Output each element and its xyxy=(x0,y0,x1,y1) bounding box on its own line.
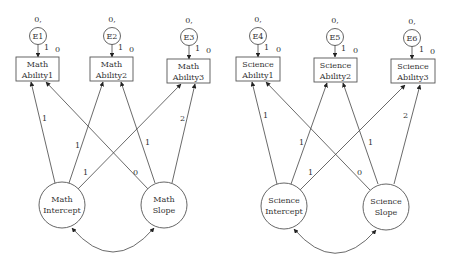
observed-math-ability3: Math Ability3 xyxy=(167,59,210,83)
science-slope-line2: Slope xyxy=(375,208,398,217)
e4-intercept-label: 0 xyxy=(276,45,281,54)
observed-science-ability2: Science Ability2 xyxy=(314,58,357,82)
error-e4: 0, E4 1 0 xyxy=(250,15,282,57)
science-ability1-line1: Science xyxy=(242,60,274,69)
e5-mean-variance: 0, xyxy=(331,16,339,25)
e5-label: E5 xyxy=(330,33,341,42)
math-ability3-line1: Math xyxy=(178,62,199,71)
science-ability2-line1: Science xyxy=(320,61,352,70)
observed-math-ability1: Math Ability1 xyxy=(16,57,59,81)
math-ability2-line2: Ability2 xyxy=(95,71,127,80)
math-slope-loading-2: 1 xyxy=(145,138,150,147)
math-covariance-arrow xyxy=(72,228,154,252)
e6-mean-variance: 0, xyxy=(408,17,416,26)
math-ability1-line1: Math xyxy=(27,60,48,69)
e3-mean-variance: 0, xyxy=(185,16,193,25)
science-panel: 0, E4 1 0 0, E5 1 0 0, E6 1 0 S xyxy=(236,15,435,253)
math-intercept-loading-2: 1 xyxy=(75,141,80,150)
science-intercept-line2: Intercept xyxy=(265,207,303,216)
e6-path-label: 1 xyxy=(419,45,424,54)
e1-path-label: 1 xyxy=(44,43,49,52)
science-slope-circle xyxy=(363,184,409,230)
science-intercept-to-ability1-arrow xyxy=(252,82,277,184)
observed-science-ability3: Science Ability3 xyxy=(391,59,435,83)
e4-mean-variance: 0, xyxy=(254,15,262,24)
math-panel: 0, E1 1 0 0, E2 1 0 0, E3 1 0 M xyxy=(16,15,211,252)
math-ability3-line2: Ability3 xyxy=(172,73,204,82)
math-intercept-line2: Intercept xyxy=(43,206,81,215)
science-intercept-loading-3: 1 xyxy=(308,168,313,177)
science-intercept-circle xyxy=(261,183,307,229)
math-ability2-line1: Math xyxy=(101,60,122,69)
path-diagram: 0, E1 1 0 0, E2 1 0 0, E3 1 0 M xyxy=(0,0,452,266)
e2-intercept-label: 0 xyxy=(129,45,134,54)
science-slope-line1: Science xyxy=(370,197,402,206)
error-e6: 0, E6 1 0 xyxy=(404,17,436,59)
e3-intercept-label: 0 xyxy=(206,46,211,55)
science-intercept-to-ability3-arrow xyxy=(300,85,405,190)
e5-intercept-label: 0 xyxy=(353,46,358,55)
math-intercept-to-ability1-arrow xyxy=(31,82,55,183)
observed-math-ability2: Math Ability2 xyxy=(90,57,133,81)
e6-intercept-label: 0 xyxy=(430,47,435,56)
science-intercept-loading-1: 1 xyxy=(263,111,268,120)
science-slope-loading-1: 0 xyxy=(357,168,362,177)
latent-science-slope: Science Slope xyxy=(363,184,409,230)
science-ability3-line2: Ability3 xyxy=(396,73,428,82)
e3-path-label: 1 xyxy=(195,44,200,53)
error-e2: 0, E2 1 0 xyxy=(104,15,135,57)
math-slope-to-ability3-arrow xyxy=(172,84,195,183)
science-intercept-line1: Science xyxy=(268,196,300,205)
math-slope-loading-3: 2 xyxy=(180,114,185,123)
science-intercept-loading-2: 1 xyxy=(299,138,304,147)
science-ability2-line2: Ability2 xyxy=(319,72,351,81)
science-slope-loading-2: 1 xyxy=(368,138,373,147)
e3-label: E3 xyxy=(184,33,195,42)
e6-label: E6 xyxy=(407,34,418,43)
e2-mean-variance: 0, xyxy=(108,15,116,24)
error-e5: 0, E5 1 0 xyxy=(327,16,359,57)
latent-math-intercept: Math Intercept xyxy=(39,182,85,228)
e1-intercept-label: 0 xyxy=(55,45,60,54)
error-e3: 0, E3 1 0 xyxy=(181,16,212,59)
math-slope-loading-1: 0 xyxy=(133,168,138,177)
math-intercept-circle xyxy=(39,182,85,228)
math-slope-line1: Math xyxy=(153,195,174,204)
e1-label: E1 xyxy=(33,32,44,41)
math-slope-circle xyxy=(141,182,187,228)
observed-science-ability1: Science Ability1 xyxy=(236,57,280,81)
latent-math-slope: Math Slope xyxy=(141,182,187,228)
e4-path-label: 1 xyxy=(264,43,269,52)
math-intercept-loading-3: 1 xyxy=(83,168,88,177)
science-ability1-line2: Ability1 xyxy=(241,71,273,80)
science-slope-to-ability3-arrow xyxy=(394,85,420,184)
math-intercept-line1: Math xyxy=(51,195,72,204)
latent-science-intercept: Science Intercept xyxy=(261,183,307,229)
science-covariance-arrow xyxy=(294,229,376,253)
math-ability1-line2: Ability1 xyxy=(21,71,53,80)
science-ability3-line1: Science xyxy=(397,62,429,71)
e5-path-label: 1 xyxy=(341,44,346,53)
science-slope-loading-3: 2 xyxy=(403,111,408,120)
e4-label: E4 xyxy=(253,32,264,41)
e2-path-label: 1 xyxy=(118,43,123,52)
error-e1: 0, E1 1 0 xyxy=(30,15,61,57)
math-intercept-to-ability3-arrow xyxy=(78,84,181,189)
math-slope-line2: Slope xyxy=(153,206,176,215)
e1-mean-variance: 0, xyxy=(34,15,42,24)
e2-label: E2 xyxy=(107,32,118,41)
math-intercept-loading-1: 1 xyxy=(42,114,47,123)
